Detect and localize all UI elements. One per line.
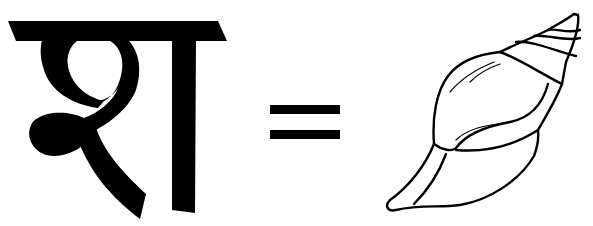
equals-bar-top (270, 105, 340, 114)
conch-shell-picture (370, 0, 593, 226)
letter-sha-glyph: श (0, 0, 250, 226)
equals-bar-bottom (270, 130, 340, 139)
conch-shell-icon (370, 0, 593, 226)
equals-sign: = (270, 105, 340, 145)
devanagari-letter-icon (0, 0, 250, 226)
